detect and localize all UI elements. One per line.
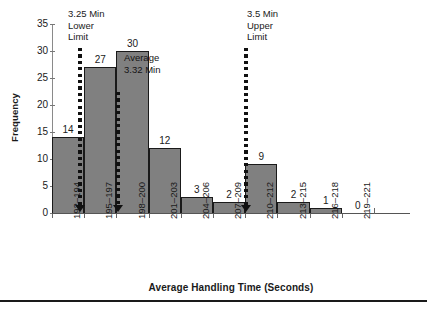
annotation-label-upper-limit: 3.5 Min Upper Limit	[247, 8, 278, 43]
bar-value-label: 14	[48, 125, 88, 135]
y-tick-label: 15	[26, 127, 48, 137]
x-tick-label: 216–218	[330, 155, 340, 219]
annotation-label-lower-limit: 3.25 Min Lower Limit	[68, 8, 104, 43]
x-tick-mark	[310, 214, 311, 218]
annotation-arrowhead-lower-limit	[75, 205, 85, 212]
bottom-divider	[0, 300, 427, 302]
y-tick-mark	[50, 105, 55, 106]
bar-value-label: 27	[80, 55, 120, 65]
annotation-line-upper-limit	[244, 48, 248, 206]
x-axis-title: Average Handling Time (Seconds)	[52, 282, 410, 293]
x-tick-label: 198–200	[137, 155, 147, 219]
x-tick-mark	[213, 214, 214, 218]
x-axis-endcap	[374, 208, 375, 214]
x-tick-mark	[277, 214, 278, 218]
x-tick-mark	[245, 214, 246, 218]
x-tick-label: 210–212	[265, 155, 275, 219]
y-tick-label: 5	[26, 181, 48, 191]
y-tick-label: 30	[26, 46, 48, 56]
annotation-line-lower-limit	[78, 48, 82, 206]
x-tick-label: 219–221	[362, 155, 372, 219]
y-tick-mark	[50, 78, 55, 79]
y-tick-label: 10	[26, 154, 48, 164]
y-tick-label: 25	[26, 73, 48, 83]
y-axis-title: Frequency	[9, 73, 20, 163]
y-tick-label: 35	[26, 19, 48, 29]
annotation-arrowhead-upper-limit	[241, 205, 251, 212]
y-tick-label: 20	[26, 100, 48, 110]
x-tick-mark	[84, 214, 85, 218]
bar-value-label: 30	[113, 39, 153, 49]
histogram-chart: Frequency 05101520253035 14273012329210 …	[0, 0, 427, 310]
x-tick-mark	[181, 214, 182, 218]
x-tick-label: 204–206	[201, 155, 211, 219]
x-tick-mark	[116, 214, 117, 218]
annotation-line-average	[116, 92, 120, 206]
bar-value-label: 12	[145, 136, 185, 146]
y-tick-label: 0	[26, 208, 48, 218]
x-tick-label: 201–203	[169, 155, 179, 219]
annotation-label-average: Average 3.32 Min	[124, 52, 160, 75]
annotation-arrowhead-average	[113, 205, 123, 212]
x-tick-mark	[342, 214, 343, 218]
x-tick-mark	[149, 214, 150, 218]
x-tick-mark	[52, 214, 53, 218]
x-tick-label: 213–215	[298, 155, 308, 219]
y-tick-mark	[50, 24, 55, 25]
y-tick-mark	[50, 51, 55, 52]
